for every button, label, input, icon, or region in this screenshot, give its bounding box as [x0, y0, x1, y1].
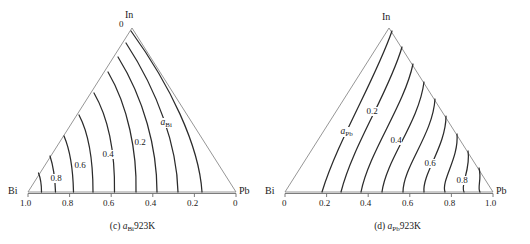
activity-symbol-label: aBi [160, 118, 172, 128]
apex-tick-label: 0 [119, 20, 124, 29]
contour-label-0-8: 0.8 [456, 176, 468, 185]
vertex-label-bi: Bi [265, 186, 274, 196]
bottom-axis-ticks [285, 194, 493, 198]
vertex-label-in: In [382, 12, 390, 22]
contour-label-0-6: 0.6 [74, 161, 86, 170]
contour-lines [39, 31, 203, 192]
caption-prefix: (d) [374, 221, 387, 231]
caption-subscript: Pb [392, 225, 399, 233]
vertex-label-pb: Pb [496, 186, 507, 196]
tick-label-1: 0.8 [62, 199, 73, 208]
activity-subscript: Bi [165, 121, 172, 129]
tick-label-5: 0 [233, 199, 238, 208]
vertex-label-in: In [125, 10, 133, 20]
tick-label-3: 0.6 [402, 199, 413, 208]
contour-label-0-8: 0.8 [50, 174, 62, 183]
panel-d-caption: (d) aPb923K [265, 221, 530, 231]
caption-suffix: 923K [134, 221, 155, 231]
contour-label-0-6: 0.6 [424, 159, 436, 168]
tick-label-5: 1.0 [485, 199, 496, 208]
panel-d-activity-pb: In Bi Pb 0 0.2 0.4 0.6 0.8 1.0 0.2 0.4 0… [265, 0, 530, 244]
contour-label-0-4: 0.4 [390, 136, 402, 145]
contour-label-0-2: 0.2 [134, 138, 146, 147]
panel-c-caption: (c) aBi923K [0, 221, 265, 231]
ternary-activity-figure: In 0 Bi Pb 1.0 0.8 0.6 0.4 0.2 0 0.8 0.6… [0, 0, 530, 244]
bottom-axis-ticks [28, 194, 236, 198]
tick-label-0: 0 [282, 199, 287, 208]
tick-label-4: 0.2 [187, 199, 198, 208]
caption-suffix: 923K [400, 221, 421, 231]
vertex-label-bi: Bi [8, 186, 17, 196]
caption-prefix: (c) [110, 221, 123, 231]
caption-activity: aBi [123, 221, 134, 231]
caption-activity: aPb [388, 221, 400, 231]
tick-label-2: 0.6 [103, 199, 114, 208]
tick-label-2: 0.4 [360, 199, 371, 208]
tick-label-1: 0.2 [319, 199, 330, 208]
panel-c-plot [0, 0, 265, 244]
tick-label-0: 1.0 [20, 199, 31, 208]
caption-subscript: Bi [127, 225, 134, 233]
tick-label-4: 0.8 [444, 199, 455, 208]
contour-label-0-4: 0.4 [102, 150, 114, 159]
activity-subscript: Pb [345, 130, 352, 138]
contour-lines [322, 31, 480, 192]
contour-label-0-2: 0.2 [366, 107, 378, 116]
activity-symbol-label: aPb [340, 127, 353, 137]
panel-c-activity-bi: In 0 Bi Pb 1.0 0.8 0.6 0.4 0.2 0 0.8 0.6… [0, 0, 265, 244]
vertex-label-pb: Pb [239, 186, 250, 196]
tick-label-3: 0.4 [145, 199, 156, 208]
